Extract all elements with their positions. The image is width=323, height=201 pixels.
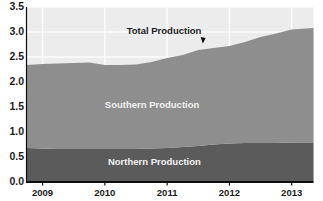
y-axis-tick-label: 2.0 [0,76,24,87]
y-axis-tick-label: 3.5 [0,1,24,12]
x-axis-tick-label: 2010 [83,187,127,198]
y-axis-tick-label: 2.5 [0,51,24,62]
annotation-southern-production: Southern Production [105,99,199,110]
annotation-northern-production: Northern Production [108,156,201,167]
y-axis-tick-label: 0.5 [0,151,24,162]
y-axis-tick-label: 3.0 [0,26,24,37]
annotation-total-production: Total Production [127,25,202,36]
stacked-area-chart: 3.53.02.52.01.51.00.50.0 200920102011201… [0,0,323,201]
x-axis-tick-label: 2013 [270,187,314,198]
x-axis-tick-label: 2011 [145,187,189,198]
y-axis-tick-label: 0.0 [0,176,24,187]
x-axis-tick-label: 2009 [21,187,65,198]
y-axis-tick-label: 1.0 [0,126,24,137]
x-axis-tick-label: 2012 [207,187,251,198]
y-axis-tick-label: 1.5 [0,101,24,112]
